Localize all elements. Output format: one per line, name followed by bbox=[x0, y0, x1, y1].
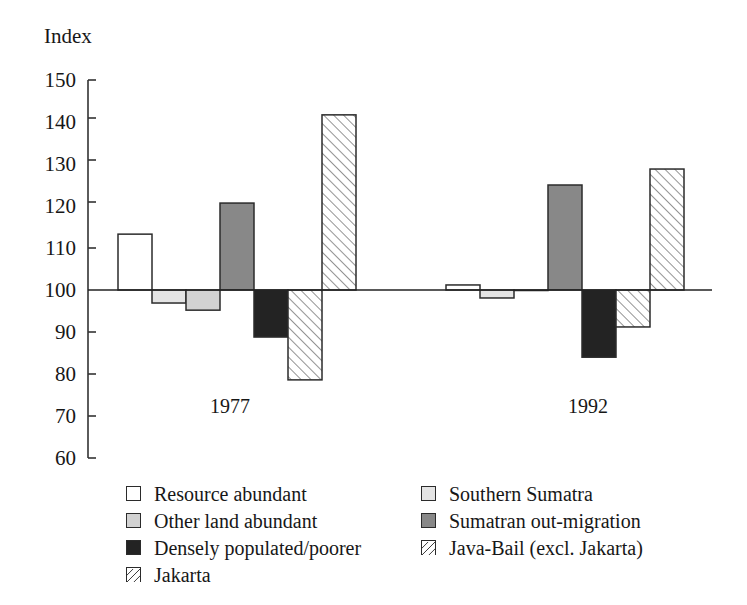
bar bbox=[220, 203, 254, 290]
legend-item-resource-abundant[interactable]: Resource abundant bbox=[126, 481, 421, 506]
legend-item-sumatran-out-migration[interactable]: Sumatran out-migration bbox=[421, 508, 721, 533]
legend: Resource abundant Other land abundant De… bbox=[126, 481, 726, 587]
hatched-square-icon bbox=[421, 540, 436, 555]
bar bbox=[480, 290, 514, 298]
legend-label: Resource abundant bbox=[154, 484, 307, 504]
legend-column-right: Southern Sumatra Sumatran out-migration bbox=[421, 481, 721, 587]
bar bbox=[650, 169, 684, 290]
bar bbox=[152, 290, 186, 303]
chart-root: Index 150 140 130 120 110 100 90 80 70 6… bbox=[0, 0, 747, 605]
legend-label: Jakarta bbox=[154, 565, 211, 585]
bar bbox=[322, 115, 356, 290]
bar bbox=[288, 290, 322, 380]
legend-label: Java-Bail (excl. Jakarta) bbox=[449, 538, 643, 558]
legend-item-southern-sumatra[interactable]: Southern Sumatra bbox=[421, 481, 721, 506]
bar bbox=[186, 290, 220, 310]
legend-label: Densely populated/poorer bbox=[154, 538, 361, 558]
bar bbox=[254, 290, 288, 337]
bar bbox=[616, 290, 650, 327]
white-square-icon bbox=[126, 486, 141, 501]
bar bbox=[118, 234, 152, 290]
legend-item-other-land-abundant[interactable]: Other land abundant bbox=[126, 508, 421, 533]
legend-column-left: Resource abundant Other land abundant De… bbox=[126, 481, 421, 587]
bars-group bbox=[118, 115, 684, 380]
legend-label: Other land abundant bbox=[154, 511, 317, 531]
pale-gray-square-icon bbox=[421, 486, 436, 501]
black-square-icon bbox=[126, 540, 141, 555]
hatched-square-icon bbox=[126, 567, 141, 582]
bar bbox=[548, 185, 582, 290]
light-gray-square-icon bbox=[126, 513, 141, 528]
mid-gray-square-icon bbox=[421, 513, 436, 528]
bar bbox=[582, 290, 616, 357]
y-axis-spine bbox=[88, 80, 96, 458]
legend-item-java-bali-excl-jakarta[interactable]: Java-Bail (excl. Jakarta) bbox=[421, 535, 721, 560]
legend-label: Southern Sumatra bbox=[449, 484, 593, 504]
legend-item-jakarta[interactable]: Jakarta bbox=[126, 562, 421, 587]
legend-item-densely-populated-poorer[interactable]: Densely populated/poorer bbox=[126, 535, 421, 560]
legend-label: Sumatran out-migration bbox=[449, 511, 641, 531]
